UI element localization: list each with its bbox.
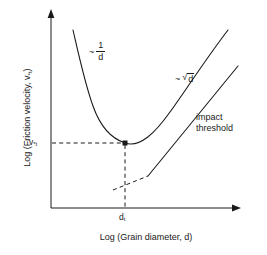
annotation-sqrt-d: ~ √ d xyxy=(175,72,194,85)
tilde-glyph: ~ xyxy=(89,47,94,58)
x-axis xyxy=(51,205,241,212)
fraction-numerator: 1 xyxy=(97,41,104,50)
fraction-one-over-d: 1 d xyxy=(96,41,105,63)
impact-threshold-extension xyxy=(113,176,148,190)
radical-sqrt-d: √ d xyxy=(182,72,194,85)
tilde-glyph: ~ xyxy=(175,74,180,85)
annotation-inverse-d: ~ 1 d xyxy=(89,41,105,63)
threshold-minimum-marker xyxy=(123,141,128,146)
y-tick-label-threshold-velocity: v*t xyxy=(29,137,37,148)
fraction-denominator: d xyxy=(97,53,104,62)
x-tick-label-subscript: t xyxy=(124,216,126,222)
impact-threshold-line1: impact xyxy=(196,112,223,122)
friction-velocity-chart: Log (Friction velocity, v*t) Log (Grain … xyxy=(0,0,267,255)
annotation-impact-threshold: impact threshold xyxy=(196,112,233,135)
y-axis-title: Log (Friction velocity, v*t) xyxy=(22,38,33,198)
x-tick-label-threshold-diameter: dt xyxy=(119,212,125,223)
x-axis-title: Log (Grain diameter, d) xyxy=(51,232,241,243)
y-tick-label-subscript: *t xyxy=(33,141,37,147)
y-axis-title-subscript: *t xyxy=(26,71,33,75)
impact-threshold-line2: threshold xyxy=(196,123,233,134)
radicand: d xyxy=(187,73,194,85)
y-axis xyxy=(48,9,55,208)
